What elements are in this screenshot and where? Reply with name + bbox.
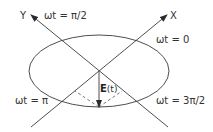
field-vector-argument: (t) xyxy=(107,84,118,94)
phase-label-pi: ωt = π xyxy=(15,95,48,106)
polarization-ellipse-diagram: Y X ωt = π/2 ωt = 0 ωt = π ωt = 3π/2 E(t… xyxy=(0,0,213,132)
phase-label-zero: ωt = 0 xyxy=(156,34,189,45)
phase-label-3pi-over-2: ωt = 3π/2 xyxy=(156,95,205,106)
phase-label-pi-over-2: ωt = π/2 xyxy=(44,10,87,21)
y-axis-label: Y xyxy=(19,10,27,21)
field-vector-label: E(t) xyxy=(100,83,117,94)
dashed-line-left xyxy=(75,91,99,107)
x-axis-label: X xyxy=(170,10,177,21)
